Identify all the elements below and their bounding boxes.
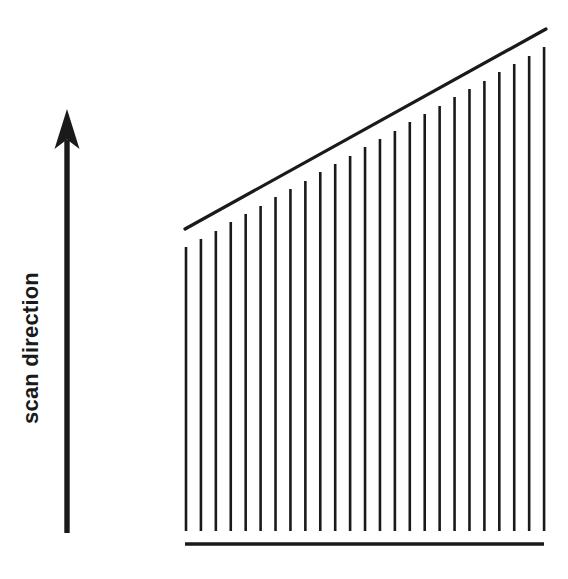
- scan-direction-label-text: scan direction: [18, 272, 43, 424]
- arrow-shaft: [64, 140, 69, 533]
- figure-canvas: scan direction: [0, 0, 568, 579]
- figure-background: [0, 0, 568, 579]
- figure-root: scan direction: [0, 0, 568, 579]
- scan-direction-label: scan direction: [18, 272, 43, 424]
